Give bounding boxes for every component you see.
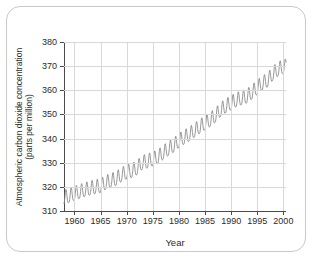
y-axis-tick-label: 360 <box>42 86 57 95</box>
y-axis-title: Atmospheric carbon dioxide concentration… <box>13 42 37 212</box>
y-axis-title-line2: (parts per million) <box>25 94 35 160</box>
y-axis-tick <box>60 187 64 188</box>
y-axis-tick-label: 340 <box>42 134 57 143</box>
x-axis-tick-label: 1965 <box>91 217 111 226</box>
x-axis-tick-label: 1975 <box>143 217 163 226</box>
x-axis-tick-label: 1985 <box>195 217 215 226</box>
gridline-vertical <box>257 42 258 211</box>
x-axis-tick <box>231 211 232 215</box>
gridline-vertical <box>127 42 128 211</box>
y-axis-tick-label: 330 <box>42 158 57 167</box>
x-axis-tick <box>257 211 258 215</box>
x-axis-tick-label: 1970 <box>117 217 137 226</box>
x-axis-tick <box>283 211 284 215</box>
gridline-vertical <box>153 42 154 211</box>
x-axis-tick <box>101 211 102 215</box>
y-axis-tick-label: 370 <box>42 62 57 71</box>
y-axis-tick-label: 310 <box>42 207 57 216</box>
gridline-horizontal <box>64 114 286 115</box>
y-axis-tick <box>60 211 64 212</box>
gridline-horizontal <box>64 90 286 91</box>
plot-area: 3103203303403503603703801960196519701975… <box>64 42 286 211</box>
x-axis-tick <box>127 211 128 215</box>
x-axis-tick-label: 1995 <box>247 217 267 226</box>
gridline-vertical <box>205 42 206 211</box>
y-axis-tick <box>60 114 64 115</box>
x-axis-tick <box>74 211 75 215</box>
x-axis-tick-label: 1980 <box>169 217 189 226</box>
x-axis-tick-label: 1990 <box>221 217 241 226</box>
gridline-vertical <box>101 42 102 211</box>
x-axis-tick <box>153 211 154 215</box>
gridline-vertical <box>74 42 75 211</box>
gridline-horizontal <box>64 163 286 164</box>
y-axis-tick <box>60 90 64 91</box>
y-axis-tick <box>60 163 64 164</box>
gridline-vertical <box>179 42 180 211</box>
data-series-line <box>64 42 286 211</box>
y-axis-tick-label: 350 <box>42 110 57 119</box>
gridline-horizontal <box>64 42 286 43</box>
y-axis-tick <box>60 139 64 140</box>
gridline-vertical <box>231 42 232 211</box>
y-axis-tick-label: 320 <box>42 182 57 191</box>
x-axis-tick-label: 2000 <box>273 217 293 226</box>
y-axis-tick <box>60 66 64 67</box>
y-axis-tick <box>60 42 64 43</box>
gridline-vertical <box>283 42 284 211</box>
y-axis-tick-label: 380 <box>42 38 57 47</box>
gridline-horizontal <box>64 66 286 67</box>
x-axis-tick <box>205 211 206 215</box>
gridline-horizontal <box>64 139 286 140</box>
gridline-horizontal <box>64 187 286 188</box>
x-axis-tick <box>179 211 180 215</box>
figure-frame: Atmospheric carbon dioxide concentration… <box>6 6 306 252</box>
x-axis-tick-label: 1960 <box>64 217 84 226</box>
x-axis-spine <box>64 211 286 212</box>
x-axis-title: Year <box>64 237 286 248</box>
